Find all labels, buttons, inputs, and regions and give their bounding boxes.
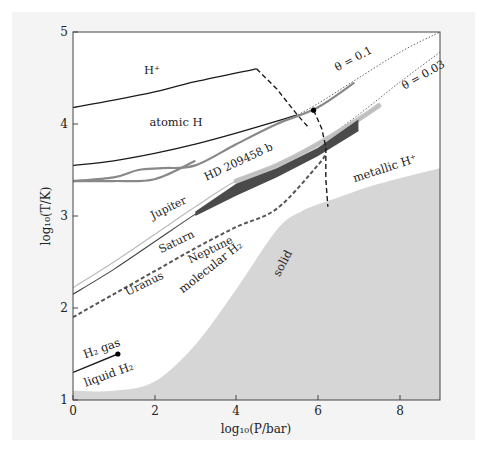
- x-tick-0: 0: [69, 404, 77, 418]
- y-tick-4: 4: [60, 117, 68, 131]
- y-axis-label: log₁₀(T/K): [39, 187, 53, 246]
- y-tick-2: 2: [60, 301, 68, 315]
- x-tick-2: 2: [151, 404, 159, 418]
- y-tick-3: 3: [60, 209, 68, 223]
- ppt-critical-point-marker: [311, 108, 316, 113]
- region-label-atomic-h: atomic H: [149, 115, 202, 129]
- region-label-h-plus: H⁺: [144, 63, 160, 77]
- y-tick-1: 1: [60, 393, 68, 407]
- h2-critical-point-marker: [115, 351, 120, 356]
- x-axis-label: log₁₀(P/bar): [221, 422, 291, 436]
- y-tick-5: 5: [60, 25, 68, 39]
- x-tick-8: 8: [396, 404, 404, 418]
- phase-diagram: 0 2 4 6 8 1 2 3 4 5 log₁₀(P/bar) log₁₀(T…: [0, 0, 485, 453]
- x-tick-6: 6: [314, 404, 322, 418]
- x-tick-4: 4: [232, 404, 240, 418]
